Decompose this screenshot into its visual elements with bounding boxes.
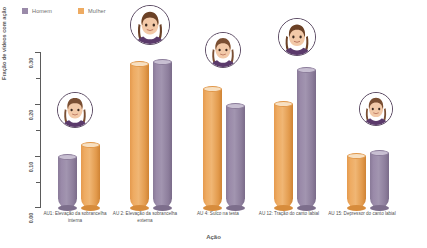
legend-label-mulher: Mulher <box>88 8 106 14</box>
bar-homem-2[interactable] <box>153 62 172 208</box>
bar-mulher-5[interactable] <box>347 156 366 208</box>
bar-mulher-3[interactable] <box>203 89 222 208</box>
x-category-label-5: AU 15: Depressor do canto labial <box>325 211 399 218</box>
x-axis-title: Ação <box>0 234 427 240</box>
legend-label-homem: Homem <box>32 8 52 14</box>
avatar-group-3 <box>205 32 241 68</box>
legend-item-homem[interactable]: Homem <box>22 8 52 14</box>
bar-cap <box>81 142 100 148</box>
y-tick-label-010: 0.10 <box>28 155 34 179</box>
bar-cap <box>347 153 366 159</box>
bar-cap <box>370 150 389 156</box>
bar-mulher-4[interactable] <box>274 104 293 208</box>
y-tick-label-030: 0.30 <box>28 51 34 75</box>
legend-swatch-homem <box>22 8 28 14</box>
bar-cap <box>130 61 149 67</box>
bar-mulher-2[interactable] <box>130 64 149 208</box>
bar-cap <box>58 154 77 160</box>
bar-homem-4[interactable] <box>297 70 316 208</box>
bar-chart: Homem Mulher Fração de vídeos com ação 0… <box>0 0 427 248</box>
bar-group-2 <box>130 62 172 208</box>
bar-cap <box>274 101 293 107</box>
bar-cap <box>226 103 245 109</box>
x-category-label-2: AU 2: Elevação da sobrancelha externa <box>108 211 182 224</box>
x-category-label-1: AU1: Elevação da sobrancelha interna <box>38 211 112 224</box>
bar-cap <box>153 59 172 65</box>
bar-cap <box>297 67 316 73</box>
plot-area <box>40 46 422 208</box>
y-axis-title: Fração de vídeos com ação <box>1 0 7 80</box>
avatar-group-5 <box>359 92 393 126</box>
x-category-label-4: AU 12: Tração do canto labial <box>252 211 326 218</box>
bar-homem-3[interactable] <box>226 106 245 208</box>
x-category-label-3: AU 4: Sulco na testa <box>181 211 255 218</box>
avatar-group-1 <box>57 92 93 128</box>
legend-swatch-mulher <box>78 8 84 14</box>
avatar-group-2 <box>130 5 170 45</box>
avatar-group-4 <box>278 18 316 56</box>
bar-mulher-1[interactable] <box>81 145 100 208</box>
bar-group-4 <box>274 70 316 208</box>
y-tick-label-020: 0.20 <box>28 103 34 127</box>
bar-homem-5[interactable] <box>370 153 389 208</box>
chart-legend: Homem Mulher <box>22 8 106 14</box>
bar-group-3 <box>203 89 245 208</box>
bar-group-5 <box>347 153 389 208</box>
bar-cap <box>203 86 222 92</box>
bar-homem-1[interactable] <box>58 157 77 208</box>
legend-item-mulher[interactable]: Mulher <box>78 8 106 14</box>
bar-group-1 <box>58 145 100 208</box>
y-tick-label-000: 0.00 <box>28 206 34 230</box>
